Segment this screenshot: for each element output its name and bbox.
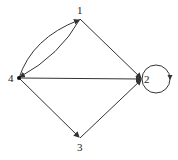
node-label-4: 4 <box>8 72 14 84</box>
edge-1-to-4 <box>20 19 80 77</box>
edge-4-to-3 <box>19 78 79 137</box>
edge-4-to-1 <box>19 20 79 78</box>
node-label-2: 2 <box>144 73 150 85</box>
edge-4-to-2 <box>19 78 141 79</box>
edge-1-to-2 <box>80 19 141 78</box>
node-label-1: 1 <box>77 4 83 16</box>
node-label-3: 3 <box>77 141 83 153</box>
node-4-dot <box>17 76 21 80</box>
graph-diagram: 1 2 3 4 <box>0 0 178 160</box>
self-loop-arrowhead-icon <box>168 75 173 80</box>
edge-3-to-2 <box>80 80 141 138</box>
